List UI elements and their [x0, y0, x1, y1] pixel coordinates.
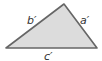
side-label-a: a′ — [80, 14, 90, 27]
triangle-diagram: b′ a′ c′ — [0, 0, 102, 61]
side-label-c: c′ — [44, 50, 53, 61]
side-label-b: b′ — [27, 14, 37, 27]
